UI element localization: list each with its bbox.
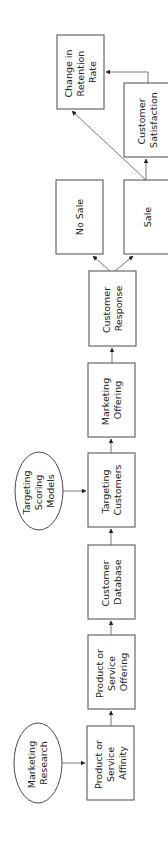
node-sale: Sale xyxy=(124,180,168,254)
flow-diagram: Change in Retention Rate Customer Satisf… xyxy=(0,0,168,858)
svg-text:No Sale: No Sale xyxy=(74,199,85,235)
svg-text:Targeting Customers: Targeting Customers xyxy=(100,464,123,515)
node-customer-database: Customer Database xyxy=(88,545,135,619)
edge-satisfaction-retention xyxy=(106,72,148,83)
svg-text:Customer Satisfaction: Customer Satisfaction xyxy=(136,92,159,148)
node-marketing-offering: Marketing Offering xyxy=(88,363,135,437)
svg-text:Product or Service: Product or Service Offering xyxy=(94,646,129,698)
node-product-service-offering: Product or Service Offering xyxy=(88,635,135,709)
node-change-retention: Change in Retention Rate xyxy=(57,35,104,109)
node-targeting-customers: Targeting Customers xyxy=(88,453,135,527)
svg-text:Marketing Research: Marketing Research xyxy=(26,738,49,788)
svg-text:Targeting Scoring: Targeting Scoring Models xyxy=(21,467,56,515)
node-no-sale: No Sale xyxy=(56,180,103,254)
svg-text:Marketing Offering: Marketing Offering xyxy=(100,375,123,425)
svg-text:Customer Database: Customer Database xyxy=(100,557,123,606)
node-customer-satisfaction: Customer Satisfaction xyxy=(124,83,168,157)
svg-text:Customer Response: Customer Response xyxy=(101,284,124,333)
node-targeting-scoring-models: Targeting Scoring Models xyxy=(15,452,63,530)
edge-response-nosale xyxy=(93,256,110,271)
svg-text:Sale: Sale xyxy=(142,207,153,227)
node-customer-response: Customer Response xyxy=(89,271,136,346)
node-product-service-affinity: Product or Service Affinity xyxy=(87,726,134,800)
node-marketing-research: Marketing Research xyxy=(14,723,62,803)
edge-response-sale xyxy=(115,256,133,271)
